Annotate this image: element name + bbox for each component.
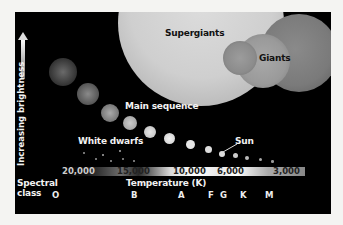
temp-tick: 10,000 [173, 167, 206, 176]
spectral-class-b: B [131, 190, 137, 200]
main-sequence-star-m [259, 158, 262, 161]
main-sequence-star-b2 [101, 104, 119, 122]
main-sequence-label: Main sequence [125, 101, 198, 111]
supergiants-label: Supergiants [165, 28, 224, 38]
white-dwarf-star [83, 152, 85, 154]
white-dwarf-star [102, 154, 104, 156]
white-dwarf-star [119, 150, 121, 152]
spectral-class-m: M [265, 190, 273, 200]
spectral-class-g: G [220, 190, 227, 200]
spectral-class-o: O [52, 190, 59, 200]
main-sequence-star-k2 [245, 156, 249, 160]
spectral-class-f: F [208, 190, 214, 200]
white-dwarf-star [122, 158, 124, 160]
x-axis-label: Temperature (K) [126, 178, 206, 188]
hr-diagram-panel: Supergiants Giants Increasing brightness… [15, 12, 331, 214]
white-dwarf-star [133, 160, 135, 162]
main-sequence-star-a2 [144, 126, 156, 138]
main-sequence-star-b [77, 83, 99, 105]
spectral-class-k: K [240, 190, 247, 200]
y-axis-label: Increasing brightness [16, 62, 26, 166]
main-sequence-star-m2 [271, 160, 274, 163]
spectral-class-label-2: class [17, 188, 41, 198]
brightness-arrowhead-icon [18, 32, 28, 40]
main-sequence-star-g [205, 146, 212, 153]
white-dwarfs-label: White dwarfs [78, 136, 143, 146]
temp-tick: 20,000 [62, 167, 95, 176]
temperature-bar: 20,000 15,000 10,000 6,000 3,000 [60, 167, 305, 176]
temp-tick: 15,000 [117, 167, 150, 176]
temp-tick: 6,000 [217, 167, 244, 176]
giant-star-small [223, 41, 257, 75]
giants-label: Giants [259, 53, 290, 63]
main-sequence-star-f2 [186, 140, 195, 149]
spectral-class-label: Spectral [17, 178, 58, 188]
main-sequence-star-o [49, 58, 77, 86]
temp-tick: 3,000 [273, 167, 300, 176]
white-dwarf-star [110, 160, 112, 162]
main-sequence-star-f [164, 133, 175, 144]
white-dwarf-star [95, 158, 97, 160]
spectral-class-a: A [178, 190, 185, 200]
main-sequence-star-a [123, 116, 137, 130]
sun-label: Sun [235, 136, 254, 146]
